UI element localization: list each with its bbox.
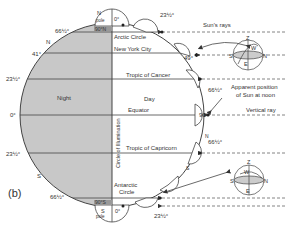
sky-north-s: S bbox=[229, 53, 233, 59]
angle-equator: 90° bbox=[199, 112, 209, 118]
equator-label: Equator bbox=[128, 107, 149, 113]
sky-south-w: W bbox=[244, 169, 250, 175]
sky-south-n: N bbox=[264, 178, 268, 184]
connector-arrow-north bbox=[200, 42, 248, 48]
sky-south-s: S bbox=[230, 178, 234, 184]
lat-left-41: 41° bbox=[32, 51, 42, 57]
sky-south-z: Z bbox=[247, 159, 251, 165]
north-pole-lat: 90°N bbox=[95, 26, 107, 32]
angle-arctic: 23½° bbox=[160, 12, 175, 18]
arctic-circle-label: Arctic Circle bbox=[114, 34, 147, 40]
south-pole-angle: 0° bbox=[115, 208, 120, 214]
lat-left-capricorn: 23½° bbox=[6, 151, 21, 157]
apparent-position-label-2: of Sun at noon bbox=[236, 92, 275, 98]
lat-left-arctic: 66½° bbox=[55, 28, 70, 34]
suns-rays-label: Sun's rays bbox=[203, 22, 231, 28]
night-label: Night bbox=[57, 95, 71, 101]
sky-north-n: N bbox=[263, 53, 267, 59]
lat-left-cancer: 23½° bbox=[6, 76, 21, 82]
sky-dome-north bbox=[233, 40, 263, 70]
sky-north-w: W bbox=[251, 45, 257, 51]
day-label: Day bbox=[144, 96, 155, 102]
tick-s: S bbox=[186, 165, 190, 171]
apparent-position-label-1: Apparent position bbox=[231, 84, 278, 90]
angle-nyc: 49° bbox=[184, 55, 194, 61]
vertical-ray-label: Vertical ray bbox=[246, 107, 276, 113]
tick-n: N bbox=[205, 133, 209, 139]
lat-left-antarctic: 66½° bbox=[50, 194, 65, 200]
s-hemisphere-label: S bbox=[37, 173, 41, 179]
south-pole-lat: 90°S bbox=[95, 199, 107, 205]
antarctic-circle-label: Circle bbox=[119, 189, 135, 195]
apparent-position-pointer bbox=[210, 98, 222, 112]
angle-cancer: 66½° bbox=[208, 87, 223, 93]
n-hemisphere-label: N bbox=[46, 39, 50, 45]
south-pole-pole: pole bbox=[96, 214, 105, 219]
sky-south-e: E bbox=[246, 188, 250, 194]
angle-capricorn: 66½° bbox=[208, 139, 223, 145]
north-pole-angle: 0° bbox=[114, 16, 119, 22]
circle-of-illumination-label: Circle of Illumination bbox=[115, 118, 121, 168]
angle-antarctic: 23½° bbox=[154, 213, 169, 219]
antarctic-label: Antarctic bbox=[114, 182, 137, 188]
lat-left-equator: 0° bbox=[10, 112, 16, 118]
north-pole-n: N bbox=[97, 10, 101, 16]
panel-label: (b) bbox=[8, 187, 21, 199]
earth-sunlight-diagram: Night Day 66½° N 41° 23½° 0° 23½° S 66½°… bbox=[0, 0, 288, 230]
tropic-capricorn-label: Tropic of Capricorn bbox=[126, 145, 177, 151]
sky-north-e: E bbox=[244, 61, 248, 67]
nyc-label: New York City bbox=[114, 46, 151, 52]
north-pole-pole: pole bbox=[96, 18, 105, 23]
tropic-cancer-label: Tropic of Cancer bbox=[126, 72, 170, 78]
